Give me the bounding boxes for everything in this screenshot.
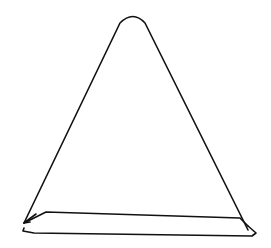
left-corner-stroke-2	[24, 222, 30, 223]
base-slab-bottom-edge	[23, 226, 256, 236]
triangle-left-edge	[24, 17, 248, 231]
drawing-canvas	[0, 0, 271, 248]
base-slab-top-edge	[26, 212, 248, 226]
triangle-sketch	[0, 0, 271, 248]
